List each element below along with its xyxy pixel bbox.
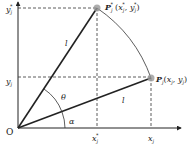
original-length-label: l: [122, 96, 125, 105]
rotated-length-label: l: [65, 39, 68, 48]
point-original-label: Pj(xj, yj): [155, 74, 187, 86]
x-star-tick-label: xj*: [92, 132, 99, 145]
y-star-tick-label: yj*: [5, 3, 13, 16]
origin-label: O: [6, 127, 13, 137]
segment-rotated: [18, 8, 97, 128]
alpha-arc: [62, 112, 65, 128]
point-rotated-marker: [94, 5, 101, 12]
theta-label: θ: [61, 93, 66, 102]
theta-arc: [44, 89, 62, 112]
alpha-label: α: [69, 117, 75, 126]
y-tick-label: yj: [5, 77, 13, 88]
point-original-marker: [148, 75, 155, 82]
point-rotated-label: Pj*(xj*, yj*): [104, 1, 140, 14]
x-tick-label: xj: [148, 134, 155, 145]
rotation-diagram: O yj* yj xj* xj Pj*(xj*, yj*) Pj(xj, yj)…: [0, 0, 187, 145]
rotation-arc: [97, 8, 151, 78]
segment-original: [18, 78, 151, 128]
